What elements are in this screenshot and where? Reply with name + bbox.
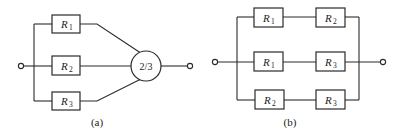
svg-text:2: 2: [333, 17, 337, 26]
caption-a: (a): [91, 116, 104, 129]
svg-text:R: R: [324, 56, 332, 68]
reliability-diagrams: R 1 R 2 R 3 2/3 (a): [0, 0, 399, 136]
svg-text:1: 1: [271, 17, 275, 26]
svg-text:R: R: [60, 18, 68, 30]
input-terminal-b: [212, 59, 217, 64]
input-terminal-a: [18, 63, 23, 68]
svg-text:1: 1: [69, 23, 73, 32]
svg-text:R: R: [262, 56, 270, 68]
svg-text:R: R: [263, 94, 271, 106]
svg-text:R: R: [324, 94, 332, 106]
diagram-b: R 1 R 2 R 1 R 3 R 2 R 3: [212, 8, 385, 129]
svg-text:R: R: [324, 12, 332, 24]
resistor-a-1: R 1: [52, 15, 80, 33]
svg-text:1: 1: [271, 61, 275, 70]
svg-text:R: R: [262, 12, 270, 24]
svg-text:3: 3: [69, 100, 73, 109]
svg-text:R: R: [60, 95, 68, 107]
output-terminal-a: [187, 63, 192, 68]
voter-2-of-3: 2/3: [131, 51, 161, 81]
svg-text:3: 3: [333, 99, 337, 108]
diagram-a: R 1 R 2 R 3 2/3 (a): [18, 15, 192, 129]
row-b-3: R 2 R 3: [255, 90, 345, 109]
resistor-a-3: R 3: [52, 92, 80, 110]
resistor-a-2: R 2: [52, 56, 80, 75]
row-b-2: R 1 R 3: [254, 52, 345, 71]
svg-text:2: 2: [272, 99, 276, 108]
row-b-1: R 1 R 2: [254, 8, 345, 27]
svg-text:3: 3: [333, 61, 337, 70]
output-terminal-b: [380, 59, 385, 64]
svg-text:R: R: [60, 60, 68, 72]
caption-b: (b): [284, 116, 297, 129]
svg-text:2/3: 2/3: [140, 61, 153, 72]
svg-text:2: 2: [69, 65, 73, 74]
